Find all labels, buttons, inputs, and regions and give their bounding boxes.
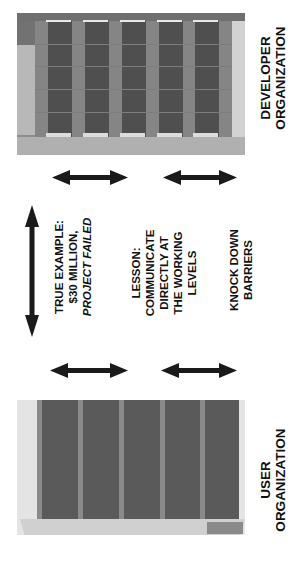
developer-window-bottom-trim [193,133,218,137]
developer-window-bottom-trim [46,133,71,137]
developer-window-column [122,21,146,137]
double-arrow-vertical-icon [25,205,39,337]
user-building-pilaster [78,400,83,519]
developer-floor-line [35,112,232,113]
double-arrow-horizontal-icon [52,170,128,185]
developer-floor-line [35,66,232,67]
note-true-example: TRUE EXAMPLE: $30 MILLION, PROJECT FAILE… [52,202,112,332]
user-building-facade [37,400,239,519]
developer-window-column [159,21,183,137]
note-true-example-text: TRUE EXAMPLE: $30 MILLION, [53,220,79,314]
developer-pilaster [146,21,159,137]
double-arrow-horizontal-icon [163,170,237,185]
developer-window-top-trim [46,20,71,22]
developer-window-bottom-trim [157,133,182,137]
developer-window-bottom-trim [83,133,108,137]
developer-building-right-wing [232,21,245,137]
developer-window-column [48,21,72,137]
developer-pilaster [109,21,122,137]
note-true-example-italic: PROJECT FAILED [81,218,93,316]
user-building-pilaster [37,400,42,519]
developer-window-top-trim [193,20,218,22]
user-building-base-accent [207,522,243,534]
developer-window-top-trim [120,20,145,22]
developer-window-bottom-trim [120,133,145,137]
note-knock-down-barriers: KNOCK DOWN BARRIERS [227,225,257,315]
user-building-pilaster [119,400,124,519]
developer-window-top-trim [157,20,182,22]
developer-pilaster [35,21,48,137]
developer-floor-line [35,44,232,45]
developer-building-ground [17,137,245,155]
double-arrow-horizontal-icon [50,363,128,378]
user-building-pilaster [200,400,205,519]
developer-window-top-trim [83,20,108,22]
developer-window-column [85,21,109,137]
developer-organization-label: DEVELOPER ORGANIZATION [259,23,293,133]
developer-pilaster [219,21,232,137]
developer-window-column [195,21,219,137]
user-building-pilaster [160,400,165,519]
developer-pilaster [72,21,85,137]
note-lesson: LESSON: COMMUNICATE DIRECTLY AT THE WORK… [129,218,201,328]
user-organization-label: USER ORGANIZATION [259,425,293,535]
double-arrow-horizontal-icon [161,363,237,378]
developer-floor-line [35,89,232,90]
